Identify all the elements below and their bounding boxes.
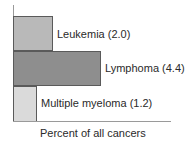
x-axis-line [13, 121, 171, 122]
bar-label-leukemia: Leukemia (2.0) [57, 28, 130, 41]
bar-leukemia [13, 16, 53, 51]
x-axis-title: Percent of all cancers [40, 127, 146, 140]
bar-label-multiple-myeloma: Multiple myeloma (1.2) [41, 97, 152, 110]
bar-multiple-myeloma [13, 86, 37, 122]
bar-lymphoma [13, 51, 101, 86]
bar-label-lymphoma: Lymphoma (4.4) [105, 62, 185, 75]
